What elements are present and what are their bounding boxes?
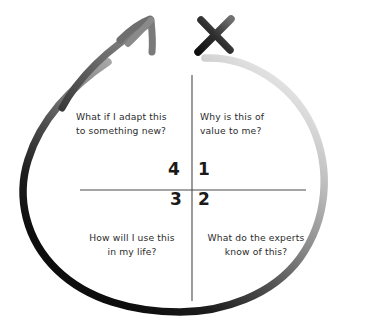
quadrant-2-text: What do the experts know of this? (196, 231, 316, 258)
quadrant-3-number: 3 (170, 189, 182, 209)
diagram-canvas (0, 0, 369, 329)
quadrant-1-number: 1 (198, 159, 210, 179)
quadrant-4-text: What if I adapt this to something new? (76, 110, 188, 137)
x-mark-icon (198, 19, 231, 52)
quadrant-1-text: Why is this of value to me? (200, 110, 312, 137)
quadrant-2-number: 2 (198, 189, 210, 209)
quadrant-3-text: How will I use this in my life? (76, 231, 188, 258)
quadrant-4-number: 4 (168, 159, 180, 179)
